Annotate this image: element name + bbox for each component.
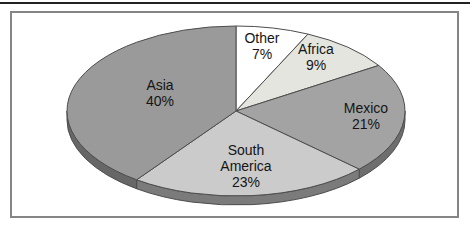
figure-canvas: Other7%Africa9%Mexico21%SouthAmerica23%A… [0,0,470,231]
pie-label-asia: Asia40% [146,77,174,109]
pie-chart-svg: Other7%Africa9%Mexico21%SouthAmerica23%A… [0,0,470,231]
